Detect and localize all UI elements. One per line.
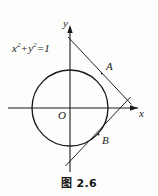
circle-equation-label: x2+y2=1 [12,42,50,54]
figure-container: x2+y2=1 y x O A B 图 2.6 [0,0,158,196]
tangent-point-b-marker [98,134,100,136]
figure-caption: 图 2.6 [0,174,158,190]
origin-label: O [58,110,66,121]
tangent-point-a-marker [101,73,103,75]
x-axis-label: x [139,108,144,119]
point-b-label: B [102,135,109,146]
geometry-diagram [0,0,158,196]
point-a-label: A [106,61,113,72]
equation-plus: + [21,42,29,54]
equation-equals-one: =1 [37,42,50,54]
paper-background [0,0,158,196]
y-axis-label: y [63,18,68,29]
